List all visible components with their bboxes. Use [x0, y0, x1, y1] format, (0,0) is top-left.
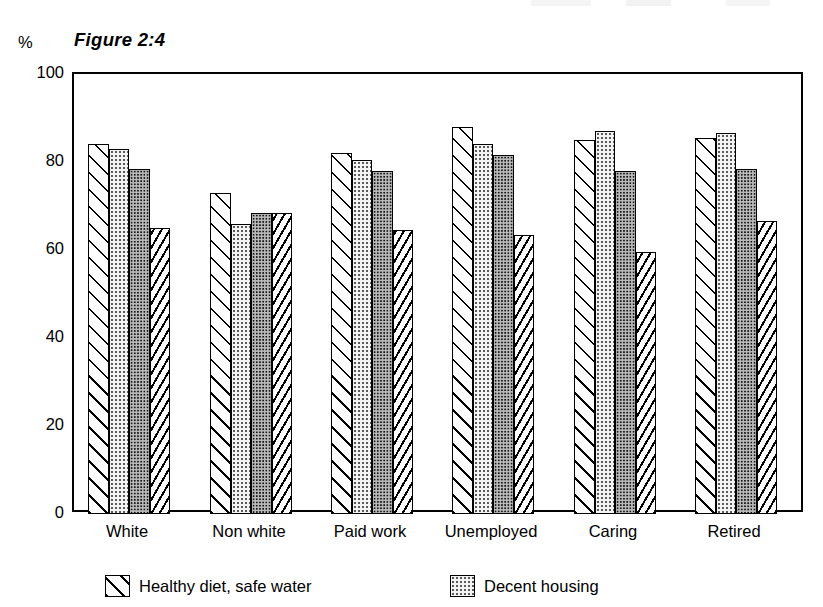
legend-item: Healthy diet, safe water — [105, 575, 311, 597]
x-axis-tick-labels: WhiteNon whitePaid workUnemployedCaringR… — [72, 521, 803, 547]
bar — [150, 228, 171, 514]
bar — [695, 138, 716, 514]
figure-2-4: % Figure 2:4 020406080100 WhiteNon white… — [0, 0, 823, 607]
bar — [615, 171, 636, 514]
figure-title: Figure 2:4 — [74, 29, 165, 51]
y-tick-label: 80 — [6, 152, 64, 169]
bar — [210, 193, 231, 514]
legend-swatch-light-dots — [450, 575, 475, 597]
y-tick-label: 40 — [6, 328, 64, 345]
bar — [452, 127, 473, 514]
bar — [757, 221, 778, 514]
bar — [272, 213, 293, 514]
y-axis-tick-labels: 020406080100 — [0, 72, 64, 512]
legend-swatch-diagonal-hatch — [105, 575, 130, 597]
page-edge-artifact — [470, 0, 770, 6]
bar — [251, 213, 272, 514]
chart-legend: Healthy diet, safe waterDecent housing — [0, 575, 823, 607]
bar — [514, 235, 535, 514]
bar — [574, 140, 595, 514]
y-tick-label: 100 — [6, 64, 64, 81]
x-tick-label: Retired — [654, 521, 814, 541]
bar — [595, 131, 616, 514]
bar — [109, 149, 130, 514]
legend-item: Decent housing — [450, 575, 599, 597]
y-tick-label: 60 — [6, 240, 64, 257]
plot-area — [72, 72, 803, 512]
y-axis-unit-label: % — [18, 33, 33, 52]
bar — [636, 252, 657, 514]
bar — [393, 230, 414, 514]
bars-layer — [74, 74, 805, 514]
y-tick-label: 20 — [6, 416, 64, 433]
bar — [129, 169, 150, 514]
bar — [352, 160, 373, 514]
bar — [736, 169, 757, 514]
bar — [493, 155, 514, 514]
bar — [88, 144, 109, 514]
bar — [473, 144, 494, 514]
y-tick-label: 0 — [6, 504, 64, 521]
legend-label: Decent housing — [484, 577, 599, 595]
legend-label: Healthy diet, safe water — [139, 577, 311, 595]
bar — [372, 171, 393, 514]
bar — [716, 133, 737, 514]
bar — [231, 224, 252, 514]
bar — [331, 153, 352, 514]
